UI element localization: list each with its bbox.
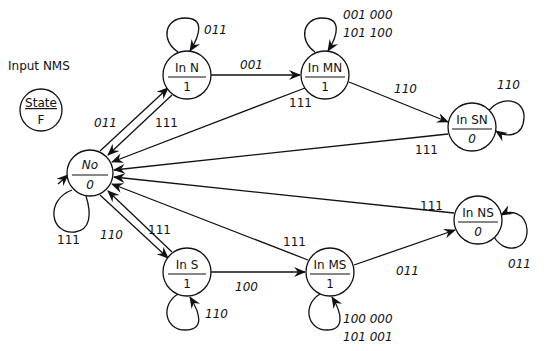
node-in-ns: In NS 0: [454, 196, 502, 244]
node-in-mn: In MN 1: [301, 51, 349, 99]
node-in-s-output: 1: [183, 277, 191, 291]
node-in-n-output: 1: [183, 80, 191, 94]
node-in-ns-name: In NS: [462, 206, 494, 220]
label-no-to-in-n: 011: [94, 116, 117, 130]
node-no: No 0: [67, 150, 113, 196]
node-in-s-name: In S: [176, 258, 199, 272]
label-in-ms-self-2: 101 001: [343, 330, 393, 344]
node-in-ms-output: 1: [326, 277, 334, 291]
node-in-sn: In SN 0: [448, 103, 496, 151]
label-in-s-to-in-ms: 100: [235, 280, 258, 294]
edge-labels: 111 011 111 011 001 001 000 101 100 111 …: [57, 8, 531, 344]
legend-state-label: State: [25, 96, 57, 110]
edge-in-ms-to-in-ns: [354, 230, 455, 265]
loop-no-arrow: [58, 175, 68, 184]
label-in-n-to-no: 111: [155, 116, 178, 130]
node-in-mn-name: In MN: [308, 61, 342, 75]
legend: Input NMS State F: [8, 59, 70, 131]
label-in-mn-self-1: 001 000: [343, 8, 393, 22]
node-in-n: In N 1: [163, 51, 211, 99]
label-in-mn-to-no: 111: [289, 96, 312, 110]
label-no-to-in-s: 110: [100, 228, 123, 242]
edges: [54, 18, 527, 330]
legend-input-label: Input NMS: [8, 59, 70, 73]
label-in-mn-to-in-sn: 110: [394, 82, 417, 96]
node-no-name: No: [82, 158, 98, 172]
label-in-ns-to-no: 111: [420, 199, 443, 213]
diagram-svg: Input NMS State F: [0, 0, 547, 351]
label-in-sn-to-no: 111: [415, 143, 438, 157]
edge-in-s-to-no: [108, 191, 172, 252]
label-in-ms-to-in-ns: 011: [396, 264, 419, 278]
legend-output-label: F: [38, 113, 45, 127]
node-in-ms-name: In MS: [314, 258, 347, 272]
label-in-s-self: 110: [205, 307, 228, 321]
node-in-mn-output: 1: [321, 80, 329, 94]
node-in-s: In S 1: [163, 248, 211, 296]
label-in-ms-to-no: 111: [283, 235, 306, 249]
loop-in-s: [167, 294, 199, 330]
label-in-mn-self-2: 101 100: [343, 26, 393, 40]
label-in-n-to-in-mn: 001: [240, 58, 263, 72]
node-in-ms: In MS 1: [306, 248, 354, 296]
label-in-sn-self: 110: [497, 78, 520, 92]
loop-in-mn: [305, 18, 337, 52]
state-diagram: Input NMS State F: [0, 0, 547, 351]
label-in-s-to-no: 111: [148, 223, 171, 237]
edge-in-sn-to-no: [114, 134, 448, 170]
node-in-ns-output: 0: [474, 225, 482, 239]
label-in-n-self: 011: [204, 23, 227, 37]
loop-in-n: [167, 18, 199, 52]
label-no-self: 111: [57, 233, 80, 247]
node-no-output: 0: [86, 178, 94, 192]
node-in-n-name: In N: [175, 61, 199, 75]
node-in-sn-name: In SN: [456, 113, 488, 127]
label-in-ns-self: 011: [508, 257, 531, 271]
node-in-sn-output: 0: [468, 132, 476, 146]
label-in-ms-self-1: 100 000: [343, 312, 393, 326]
edge-in-ns-to-no: [114, 177, 454, 213]
loop-no: [54, 190, 89, 232]
loop-in-ms: [309, 294, 340, 330]
